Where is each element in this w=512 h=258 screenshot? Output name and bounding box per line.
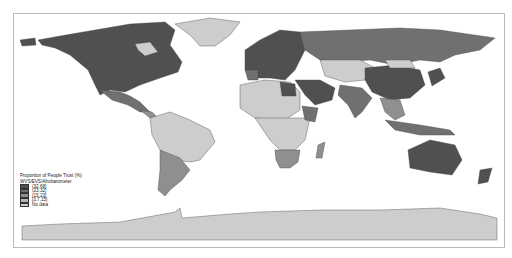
legend-item: No data xyxy=(20,203,82,208)
region-south-america-north xyxy=(150,112,215,162)
region-russia xyxy=(300,28,495,65)
region-alaska-west xyxy=(20,38,36,46)
region-africa-central xyxy=(255,118,310,150)
region-middle-east xyxy=(295,80,335,105)
region-china xyxy=(365,65,425,100)
legend-label: No data xyxy=(32,202,48,208)
region-madagascar xyxy=(316,142,325,158)
region-india xyxy=(338,85,372,118)
region-indonesia xyxy=(385,120,455,135)
region-australia xyxy=(408,140,462,175)
region-mexico xyxy=(100,90,150,112)
region-mongolia xyxy=(385,60,415,68)
region-antarctica xyxy=(22,208,497,240)
legend-title: Proportion of People Trust (%) xyxy=(20,173,82,179)
map-legend: Proportion of People Trust (%) WVS/EVS/A… xyxy=(20,173,82,207)
region-southeast-asia xyxy=(380,98,405,120)
region-egypt xyxy=(280,82,296,96)
world-map xyxy=(0,0,512,258)
region-iberia xyxy=(245,70,258,80)
region-greenland xyxy=(175,18,240,46)
region-new-zealand xyxy=(478,168,492,184)
region-southern-africa xyxy=(275,150,300,168)
legend-swatch xyxy=(20,203,29,208)
region-canada-usa xyxy=(38,22,182,95)
region-japan xyxy=(428,68,445,86)
